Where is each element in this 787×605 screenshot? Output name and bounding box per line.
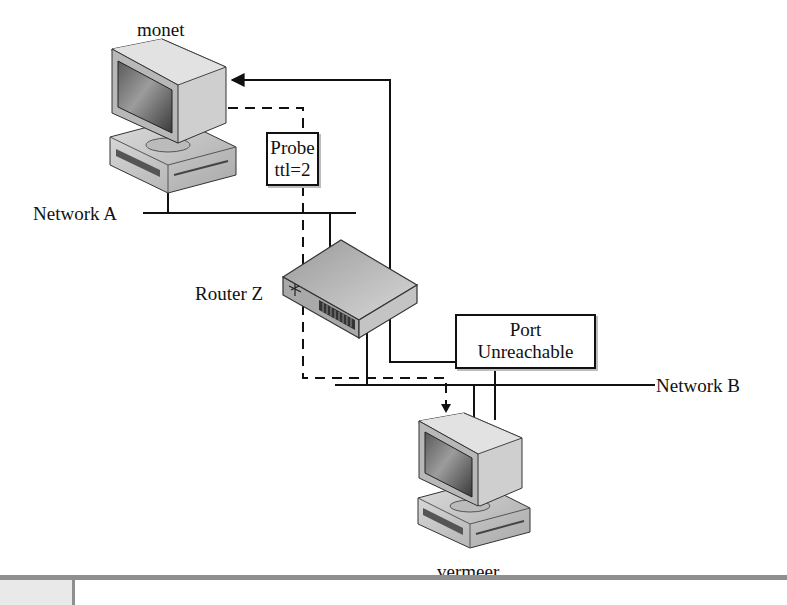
router-z-label: Router Z (195, 284, 263, 303)
probe-line-2: ttl=2 (268, 159, 317, 181)
port-unreachable-message-box: Port Unreachable (455, 314, 596, 369)
footer-divider (0, 575, 787, 580)
footer-tab (0, 580, 75, 605)
vermeer-computer-icon (418, 413, 530, 548)
probe-arrow-icon (441, 404, 451, 413)
probe-line-1: Probe (268, 137, 317, 159)
network-a-label: Network A (33, 204, 117, 223)
network-b-label: Network B (656, 376, 740, 395)
port-unreachable-line-1: Port (457, 319, 594, 341)
probe-message-box: Probe ttl=2 (266, 132, 319, 186)
monet-computer-icon (110, 39, 236, 193)
network-diagram (0, 0, 787, 605)
port-unreachable-line-2: Unreachable (457, 341, 594, 363)
monet-label: monet (137, 20, 185, 39)
